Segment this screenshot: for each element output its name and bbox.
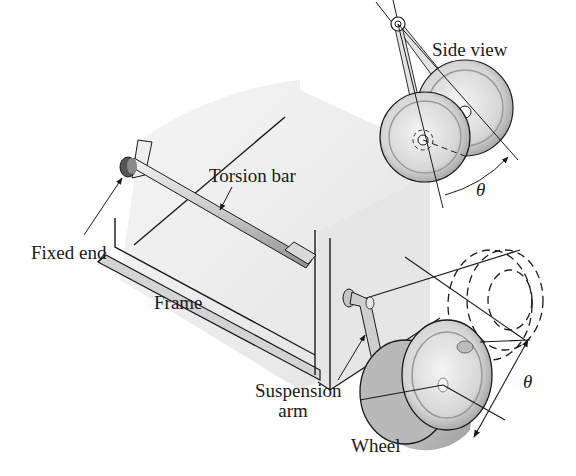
- label-side-view: Side view: [432, 40, 507, 60]
- label-suspension-arm-line2: arm: [255, 401, 331, 421]
- label-frame: Frame: [154, 293, 203, 313]
- label-suspension-arm-line1: Suspension: [255, 381, 331, 401]
- label-fixed-end: Fixed end: [31, 243, 106, 263]
- label-torsion-bar: Torsion bar: [209, 166, 296, 186]
- label-wheel: Wheel: [351, 436, 401, 456]
- label-theta-main: θ: [523, 372, 532, 392]
- label-suspension-arm: Suspension arm: [255, 381, 331, 421]
- label-theta-side: θ: [476, 180, 485, 200]
